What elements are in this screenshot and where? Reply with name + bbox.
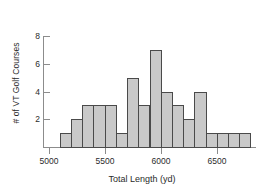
histogram-bar bbox=[239, 133, 251, 148]
histogram-figure: # of VT Golf Courses Total Length (yd) 2… bbox=[0, 0, 273, 193]
histogram-bars bbox=[0, 0, 273, 193]
